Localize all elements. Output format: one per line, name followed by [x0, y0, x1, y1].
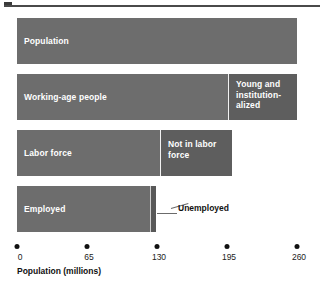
axis-tick-label-130: 130: [152, 252, 166, 262]
bar-segment-not-in-labor-force[interactable]: Not in labor force: [160, 130, 232, 176]
unemployed-leader-line: [157, 213, 177, 214]
bar-segment-label-working-age-people: Working-age people: [24, 92, 107, 103]
bar-segment-label-not-in-labor-force: Not in labor force: [168, 139, 232, 160]
bar-segment-label-labor-force: Labor force: [24, 148, 72, 159]
bar-segment-label-young-and-institutionalized: Young and institution- alized: [236, 79, 300, 111]
x-axis: 0 65 130 195 260 Population (millions): [0, 242, 324, 283]
axis-tick-dot-0: [15, 244, 20, 249]
not-in-labor-label-line-1: Not in labor: [168, 139, 216, 149]
young-label-line-2: institution-: [236, 90, 281, 100]
axis-tick-label-260: 260: [292, 252, 306, 262]
population-breakdown-chart: Population Working-age people Young and …: [0, 0, 324, 283]
bar-segment-population[interactable]: Population: [17, 18, 297, 64]
axis-tick-dot-260: [295, 244, 300, 249]
axis-tick-dot-65: [85, 244, 90, 249]
bar-segment-young-and-institutionalized[interactable]: Young and institution- alized: [228, 74, 297, 120]
x-axis-title: Population (millions): [17, 266, 101, 276]
axis-tick-label-0: 0: [18, 252, 23, 262]
bar-segment-label-population: Population: [24, 36, 69, 47]
axis-tick-dot-130: [155, 244, 160, 249]
bar-segment-label-unemployed: Unemployed: [178, 203, 229, 213]
not-in-labor-label-line-2: force: [168, 150, 189, 160]
top-divider-rule: [4, 5, 320, 7]
bar-segment-label-employed: Employed: [24, 204, 65, 215]
bar-segment-employed[interactable]: Employed: [17, 186, 150, 232]
axis-tick-dot-195: [225, 244, 230, 249]
axis-tick-label-195: 195: [222, 252, 236, 262]
axis-tick-label-65: 65: [84, 252, 93, 262]
young-label-line-1: Young and: [236, 79, 280, 89]
bar-segment-working-age-people[interactable]: Working-age people: [17, 74, 228, 120]
young-label-line-3: alized: [236, 100, 260, 110]
plot-area: Population Working-age people Young and …: [0, 14, 324, 242]
bar-segment-labor-force[interactable]: Labor force: [17, 130, 160, 176]
bar-segment-unemployed[interactable]: [150, 186, 156, 232]
